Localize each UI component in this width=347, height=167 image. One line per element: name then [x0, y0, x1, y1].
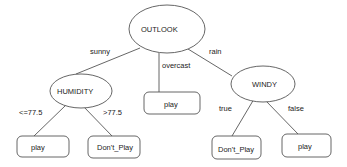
- edge-label-windy-false: false: [288, 104, 304, 113]
- leaf-label-humidity-high-dont-play: Don't_Play: [97, 143, 133, 152]
- node-outlook: OUTLOOK: [129, 5, 205, 53]
- node-label-outlook: OUTLOOK: [141, 25, 178, 34]
- leaf-label-humidity-low-play: play: [31, 143, 45, 152]
- edge-label-windy-true: true: [219, 104, 232, 113]
- leaf-humidity-low-play: play: [17, 136, 69, 157]
- edge-label-overcast: overcast: [162, 61, 191, 70]
- edge-label-humidity-low: <=77.5: [19, 108, 42, 117]
- edge-windy-true: [232, 99, 254, 136]
- decision-tree-diagram: sunny overcast rain <=77.5 >77.5 true fa…: [0, 0, 347, 167]
- node-label-humidity: HUMIDITY: [57, 87, 93, 96]
- leaf-label-windy-false-play: play: [298, 142, 312, 151]
- leaf-windy-false-play: play: [282, 134, 331, 157]
- leaf-windy-true-dont-play: Don't_Play: [212, 136, 261, 159]
- edge-label-humidity-high: >77.5: [103, 108, 122, 117]
- leaf-label-windy-true-dont-play: Don't_Play: [218, 145, 254, 154]
- node-windy: WINDY: [231, 66, 295, 102]
- edge-label-sunny: sunny: [90, 47, 110, 56]
- leaf-overcast-play: play: [144, 92, 200, 114]
- node-humidity: HUMIDITY: [50, 74, 112, 108]
- leaf-label-overcast-play: play: [164, 100, 178, 109]
- edge-label-rain: rain: [209, 47, 222, 56]
- node-label-windy: WINDY: [252, 80, 277, 89]
- leaf-humidity-high-dont-play: Don't_Play: [88, 136, 140, 158]
